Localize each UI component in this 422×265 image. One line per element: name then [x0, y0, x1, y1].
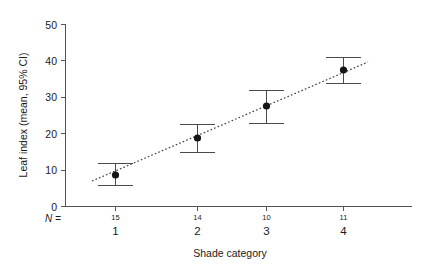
- y-tick-label-10: 10: [45, 164, 57, 176]
- x-tick-label-1: 1: [112, 225, 118, 237]
- n-value-1: 15: [111, 213, 119, 222]
- x-tick-label-2: 2: [194, 225, 200, 237]
- data-point-marker-2: [194, 134, 201, 141]
- data-point-marker-3: [263, 102, 270, 109]
- x-tick-label-4: 4: [340, 225, 347, 237]
- n-value-4: 11: [340, 213, 348, 222]
- data-point-marker-4: [340, 66, 347, 73]
- leaf-index-shade-category-chart: 50 40 30 20 10 0 Leaf index (mean, 95% C…: [0, 0, 422, 265]
- n-value-3: 10: [262, 213, 270, 222]
- y-tick-label-50: 50: [45, 19, 57, 31]
- data-point-marker-1: [112, 171, 119, 178]
- y-tick-label-20: 20: [45, 128, 57, 140]
- n-value-2: 14: [193, 213, 201, 222]
- y-axis-title: Leaf index (mean, 95% CI): [17, 53, 29, 178]
- chart-background: [0, 0, 422, 265]
- y-tick-label-40: 40: [45, 55, 57, 67]
- n-prefix-label: N =: [45, 213, 61, 224]
- chart-container: 50 40 30 20 10 0 Leaf index (mean, 95% C…: [0, 0, 422, 265]
- x-tick-label-3: 3: [263, 225, 269, 237]
- x-axis-title: Shade category: [193, 247, 267, 259]
- y-tick-label-30: 30: [45, 91, 57, 103]
- y-tick-label-0: 0: [51, 201, 57, 213]
